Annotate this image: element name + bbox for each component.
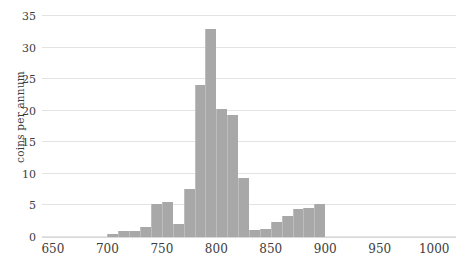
x-tick-label: 1000	[404, 243, 464, 255]
x-axis-line	[42, 237, 456, 238]
y-tick-label: 0	[4, 232, 36, 243]
histogram-chart: coins per annum 05101520253035 650700750…	[0, 0, 466, 270]
y-tick-label: 20	[4, 105, 36, 116]
y-axis-ticks: 05101520253035	[42, 16, 456, 237]
x-tick-label: 700	[77, 243, 137, 255]
x-tick-label: 950	[350, 243, 410, 255]
x-tick-label: 850	[241, 243, 301, 255]
x-tick-label: 650	[23, 243, 83, 255]
x-axis-ticks: 6507007508008509009501000	[42, 240, 456, 266]
x-tick-label: 900	[295, 243, 355, 255]
y-tick-label: 35	[4, 11, 36, 22]
y-tick-label: 10	[4, 168, 36, 179]
y-tick-label: 25	[4, 74, 36, 85]
x-tick-label: 800	[186, 243, 246, 255]
y-tick-label: 30	[4, 42, 36, 53]
y-tick-label: 5	[4, 200, 36, 211]
x-tick-label: 750	[132, 243, 192, 255]
y-tick-label: 15	[4, 137, 36, 148]
